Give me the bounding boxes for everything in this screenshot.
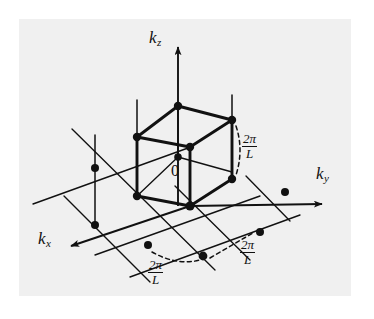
axis-label-kx-base: k <box>38 229 46 248</box>
origin-label: 0 <box>171 163 179 179</box>
spacing-numerator: 2π <box>240 238 255 253</box>
axis-label-kz-subscript: z <box>157 36 161 48</box>
axis-label-kz-base: k <box>149 28 157 47</box>
spacing-numerator: 2π <box>242 132 257 147</box>
spacing-numerator: 2π <box>148 258 163 273</box>
spacing-label-bottom-left: 2π L <box>148 258 163 287</box>
spacing-label-right-vertical: 2π L <box>242 132 257 161</box>
axis-label-ky-base: k <box>316 164 324 183</box>
spacing-label-bottom-right: 2π L <box>240 238 255 267</box>
spacing-denominator: L <box>242 147 257 161</box>
axis-label-kx-subscript: x <box>46 237 51 249</box>
figure-root: kz ky kx 0 2π L 2π L 2π L <box>0 0 374 319</box>
axis-label-ky: ky <box>316 165 329 184</box>
figure-panel <box>19 19 351 296</box>
axis-label-kz: kz <box>149 29 161 48</box>
axis-label-ky-subscript: y <box>324 172 329 184</box>
spacing-denominator: L <box>240 253 255 267</box>
spacing-denominator: L <box>148 273 163 287</box>
axis-label-kx: kx <box>38 230 51 249</box>
